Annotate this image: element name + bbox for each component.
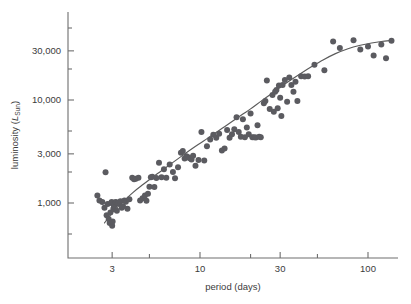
data-point	[110, 219, 116, 225]
data-point	[161, 166, 167, 172]
data-point	[351, 37, 357, 43]
data-point	[292, 79, 298, 85]
data-point	[383, 55, 389, 61]
x-tick-label: 100	[360, 263, 376, 274]
period-luminosity-chart: 1,0003,00010,00030,00031030100 period (d…	[0, 0, 411, 304]
data-point	[294, 98, 300, 104]
x-axis-title: period (days)	[205, 281, 260, 292]
data-point	[175, 164, 181, 170]
data-point	[262, 98, 268, 104]
data-point	[357, 46, 363, 52]
y-tick-label: 30,000	[32, 45, 61, 56]
data-point	[222, 146, 228, 152]
data-point	[151, 184, 157, 190]
data-point	[204, 143, 210, 149]
data-point	[156, 160, 162, 166]
data-point	[290, 89, 296, 95]
data-point	[330, 38, 336, 44]
data-point	[244, 125, 250, 131]
data-point	[143, 198, 149, 204]
data-point	[277, 95, 283, 101]
data-point	[275, 105, 281, 111]
y-tick-label: 10,000	[32, 94, 61, 105]
data-point	[99, 199, 105, 205]
data-point	[201, 158, 207, 164]
data-points	[94, 37, 394, 229]
data-point	[170, 169, 176, 175]
chart-canvas: 1,0003,00010,00030,00031030100 period (d…	[0, 0, 411, 304]
data-point	[258, 134, 264, 140]
x-tick-label: 3	[110, 263, 115, 274]
data-point	[190, 153, 196, 159]
y-axis-title: luminosity (LSun)	[9, 101, 21, 169]
x-tick-label: 30	[275, 263, 286, 274]
data-point	[103, 169, 109, 175]
data-point	[124, 206, 130, 212]
data-point	[153, 175, 159, 181]
data-point	[216, 131, 222, 137]
data-point	[172, 175, 178, 181]
data-point	[378, 42, 384, 48]
data-point	[305, 73, 311, 79]
data-point	[389, 38, 395, 44]
x-tick-label: 10	[195, 263, 206, 274]
data-point	[234, 114, 240, 120]
data-point	[163, 175, 169, 181]
y-tick-label: 3,000	[37, 148, 61, 159]
data-point	[278, 113, 284, 119]
data-point	[145, 191, 151, 197]
data-point	[167, 161, 173, 167]
data-point	[321, 67, 327, 73]
data-point	[284, 99, 290, 105]
data-point	[248, 110, 254, 116]
y-tick-label: 1,000	[37, 197, 61, 208]
data-point	[264, 77, 270, 83]
data-point	[135, 175, 141, 181]
data-point	[255, 122, 261, 128]
data-point	[192, 163, 198, 169]
data-point	[224, 127, 230, 133]
data-point	[196, 157, 202, 163]
data-point	[240, 116, 246, 122]
data-point	[198, 129, 204, 135]
data-point	[365, 44, 371, 50]
data-point	[126, 196, 132, 202]
data-point	[286, 75, 292, 81]
data-point	[180, 148, 186, 154]
data-point	[371, 53, 377, 59]
data-point	[311, 62, 317, 68]
data-point	[337, 45, 343, 51]
